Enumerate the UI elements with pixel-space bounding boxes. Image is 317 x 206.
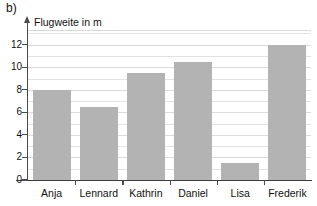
x-tick-mark <box>122 180 123 185</box>
x-axis-ticks <box>0 0 317 206</box>
x-tick-label: Anja <box>28 186 75 200</box>
x-tick-mark <box>170 180 171 185</box>
x-axis-category-labels: AnjaLennardKathrinDanielLisaFrederik <box>28 186 311 204</box>
x-tick-label: Frederik <box>264 186 311 200</box>
bar-chart-figure: b) Flugweite in m 024681012 AnjaLennardK… <box>0 0 317 206</box>
x-tick-label: Lennard <box>75 186 122 200</box>
x-tick-mark <box>217 180 218 185</box>
x-tick-mark <box>264 180 265 185</box>
x-tick-label: Lisa <box>217 186 264 200</box>
x-tick-mark <box>75 180 76 185</box>
x-tick-label: Daniel <box>170 186 217 200</box>
x-tick-label: Kathrin <box>122 186 169 200</box>
